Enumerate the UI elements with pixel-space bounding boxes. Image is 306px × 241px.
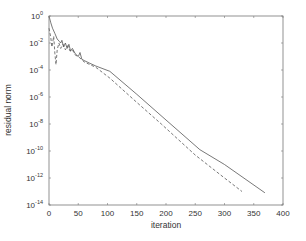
chart: 050100150200250300350400 10010-210-410-6… (0, 0, 306, 241)
y-axis-label: residual norm (3, 84, 13, 136)
x-tick-label: 100 (101, 209, 115, 218)
x-tick-label: 300 (218, 209, 232, 218)
x-tick-label: 250 (189, 209, 203, 218)
x-tick-label: 150 (130, 209, 144, 218)
x-tick-label: 50 (74, 209, 83, 218)
x-tick-label: 0 (47, 209, 52, 218)
x-tick-label: 350 (247, 209, 261, 218)
x-tick-label: 200 (159, 209, 173, 218)
x-axis-label: iteration (151, 220, 182, 230)
x-tick-label: 400 (276, 209, 290, 218)
